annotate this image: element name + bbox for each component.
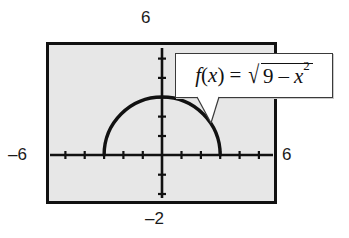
axis-label-bottom: –2 bbox=[145, 209, 164, 229]
figure-root: f(x)=√9–x2 6 –6 6 –2 bbox=[0, 0, 349, 238]
radicand-exponent: 2 bbox=[303, 58, 310, 73]
axis-label-right: 6 bbox=[282, 145, 291, 165]
callout-tail bbox=[175, 90, 245, 135]
formula-close-paren: ) bbox=[217, 65, 224, 86]
axis-label-top: 6 bbox=[141, 8, 150, 28]
formula-radicand: 9–x2 bbox=[261, 63, 313, 88]
radicand-minus: – bbox=[278, 64, 289, 88]
formula-radical: √9–x2 bbox=[247, 63, 313, 88]
formula-text: f(x)=√9–x2 bbox=[195, 63, 313, 88]
radical-sign-icon: √ bbox=[249, 62, 260, 87]
radicand-first-term: 9 bbox=[263, 64, 274, 88]
formula-argument: x bbox=[208, 65, 217, 86]
formula-equals: = bbox=[229, 65, 241, 86]
radicand-variable: x bbox=[294, 64, 303, 88]
formula-open-paren: ( bbox=[201, 65, 208, 86]
axis-label-left: –6 bbox=[8, 145, 27, 165]
